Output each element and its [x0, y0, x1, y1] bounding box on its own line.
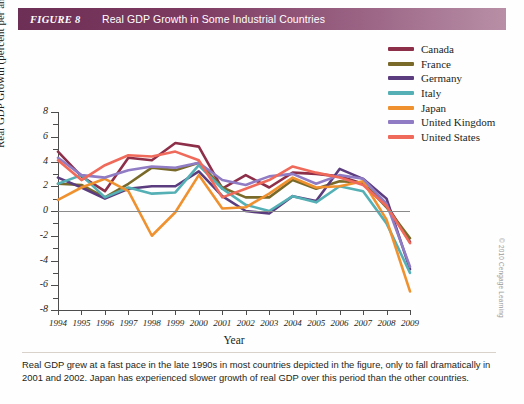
y-axis-tick-label: -2: [24, 229, 48, 240]
x-axis-tick: [152, 310, 153, 315]
figure-header-bar: FIGURE 8 Real GDP Growth in Some Industr…: [18, 8, 506, 30]
copyright-credit: © 2010 Cengage Learning: [498, 238, 505, 318]
y-axis-title: Real GDP Growth (percent per annum): [0, 0, 6, 148]
y-axis-tick: [51, 310, 58, 311]
y-axis-tick: [51, 162, 58, 163]
legend-swatch-icon: [388, 106, 414, 110]
legend-item-france: France: [388, 57, 495, 72]
legend-swatch-icon: [388, 47, 414, 51]
y-axis-tick: [51, 211, 58, 212]
zero-reference-line: [58, 211, 410, 212]
x-axis-tick: [293, 310, 294, 315]
x-axis-tick: [340, 310, 341, 315]
x-axis-tick: [269, 310, 270, 315]
x-axis-title: Year: [0, 334, 468, 346]
y-axis-tick-label: -4: [24, 254, 48, 265]
caption-box: Real GDP grew at a fast pace in the late…: [22, 358, 496, 384]
legend-label: United Kingdom: [421, 116, 495, 128]
legend-item-canada: Canada: [388, 42, 495, 57]
y-axis-tick-label: 0: [24, 204, 48, 215]
legend-label: Germany: [421, 72, 462, 84]
series-line-united-kingdom: [58, 158, 410, 267]
x-axis-tick: [175, 310, 176, 315]
y-axis-tick: [51, 137, 58, 138]
figure-container: FIGURE 8 Real GDP Growth in Some Industr…: [0, 0, 524, 404]
y-axis-tick: [51, 236, 58, 237]
y-axis-tick-label: 2: [24, 179, 48, 190]
legend-swatch-icon: [388, 76, 414, 80]
y-axis-tick: [51, 285, 58, 286]
x-axis-line: [58, 310, 410, 311]
x-axis-tick: [105, 310, 106, 315]
x-axis-tick: [246, 310, 247, 315]
x-axis-tick: [81, 310, 82, 315]
figure-title: Real GDP Growth in Some Industrial Count…: [102, 13, 325, 25]
legend-swatch-icon: [388, 91, 414, 95]
legend-label: Canada: [421, 43, 454, 55]
x-axis-tick: [410, 310, 411, 315]
legend-label: United States: [421, 131, 480, 143]
legend-label: Japan: [421, 102, 446, 114]
x-axis-tick: [128, 310, 129, 315]
legend-label: France: [421, 58, 451, 70]
legend-label: Italy: [421, 87, 441, 99]
y-axis-tick: [51, 261, 58, 262]
caption-text: Real GDP grew at a fast pace in the late…: [22, 358, 496, 384]
x-axis-tick: [222, 310, 223, 315]
legend-swatch-icon: [388, 62, 414, 66]
x-axis-tick-label: 2009: [395, 318, 425, 328]
legend-item-italy: Italy: [388, 86, 495, 101]
y-axis-tick: [51, 186, 58, 187]
y-axis-tick-label: 6: [24, 130, 48, 141]
x-axis-tick: [363, 310, 364, 315]
y-axis-tick: [51, 112, 58, 113]
y-axis-tick-label: 8: [24, 105, 48, 116]
series-line-france: [58, 163, 410, 238]
x-axis-tick: [387, 310, 388, 315]
y-axis-tick-label: 4: [24, 155, 48, 166]
figure-number: FIGURE 8: [18, 14, 102, 25]
x-axis-tick: [316, 310, 317, 315]
legend-item-germany: Germany: [388, 71, 495, 86]
caption-divider: [22, 352, 496, 353]
y-axis-tick-label: -8: [24, 303, 48, 314]
y-axis-tick-label: -6: [24, 278, 48, 289]
x-axis-tick: [58, 310, 59, 315]
x-axis-tick: [199, 310, 200, 315]
